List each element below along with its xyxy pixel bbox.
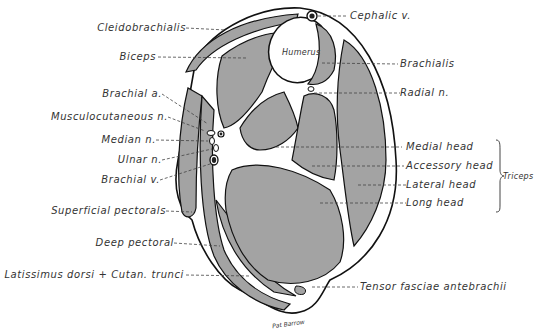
label-brachialis: Brachialis <box>400 58 455 70</box>
median-nerve <box>210 138 215 145</box>
label-accessory-head: Accessory head <box>406 160 493 172</box>
radial-nerve <box>308 87 314 92</box>
musculocutaneous-nerve <box>207 131 215 136</box>
label-deep-pectoral: Deep pectoral <box>70 237 174 249</box>
anatomy-figure: Cleidobrachialis Biceps Brachial a. Musc… <box>0 0 538 329</box>
label-musculocutaneous-nerve: Musculocutaneous n. <box>40 111 168 123</box>
label-ulnar-nerve: Ulnar n. <box>80 154 162 166</box>
label-lateral-head: Lateral head <box>406 179 476 191</box>
label-superficial-pectorals: Superficial pectorals <box>20 205 166 217</box>
label-cephalic-vein: Cephalic v. <box>350 10 411 22</box>
label-latissimus-dorsi: Latissimus dorsi + Cutan. trunci <box>0 269 184 281</box>
label-humerus: Humerus <box>282 47 320 59</box>
ulnar-nerve <box>214 145 219 152</box>
label-radial-nerve: Radial n. <box>400 87 449 99</box>
label-long-head: Long head <box>406 197 464 209</box>
label-brachial-vein: Brachial v. <box>70 174 160 186</box>
label-biceps: Biceps <box>100 51 156 63</box>
label-medial-head: Medial head <box>406 141 474 153</box>
label-triceps: Triceps <box>503 171 533 183</box>
label-cleidobrachialis: Cleidobrachialis <box>96 22 186 34</box>
label-tensor-fasciae-antebrachii: Tensor fasciae antebrachii <box>360 281 507 293</box>
label-brachial-artery: Brachial a. <box>76 88 162 100</box>
label-median-nerve: Median n. <box>80 134 156 146</box>
